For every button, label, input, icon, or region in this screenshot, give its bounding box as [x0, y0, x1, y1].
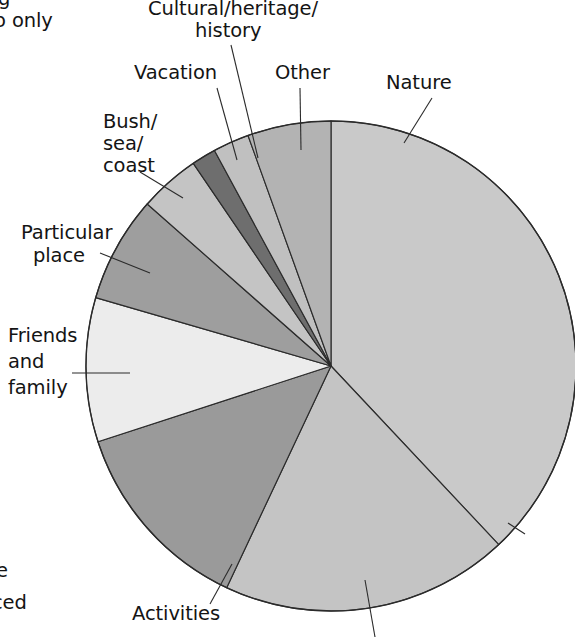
clipped-text-bottom-left-line2: ced [0, 592, 27, 614]
slice-label-particular-line2: place [33, 245, 85, 267]
slice-label-bush-line2: sea/ [103, 133, 143, 155]
pie-slices-group [86, 121, 575, 611]
clipped-text-bottom-left-line1: e [0, 560, 8, 582]
slice-label-cultural-line2: history [195, 20, 261, 42]
slice-label-particular-line1: Particular [21, 222, 112, 244]
chart-canvas: g o only e ced Cultural/heritage/ histor… [0, 0, 575, 637]
slice-label-activities: Activities [132, 603, 220, 625]
slice-label-friends-line3: family [8, 377, 68, 399]
slice-label-friends-line1: Friends [8, 325, 77, 347]
slice-label-cultural-line1: Cultural/heritage/ [148, 0, 318, 20]
slice-label-bush-line3: coast [103, 155, 155, 177]
slice-label-bush-line1: Bush/ [103, 111, 157, 133]
pie-chart-svg [0, 0, 575, 637]
slice-label-friends-line2: and [8, 351, 44, 373]
clipped-text-top-left-line2: o only [0, 10, 53, 32]
slice-label-nature: Nature [386, 72, 452, 94]
slice-label-vacation: Vacation [134, 62, 217, 84]
slice-label-other: Other [275, 62, 330, 84]
